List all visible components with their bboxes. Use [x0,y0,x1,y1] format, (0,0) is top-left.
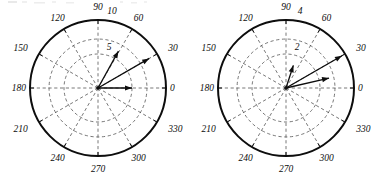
angle-tick-label-30: 30 [167,43,178,53]
angle-tick-label-270: 270 [91,164,106,174]
angle-tick-label-90: 90 [281,2,291,12]
angle-tick-label-90: 90 [93,2,103,12]
origin-dot [284,86,288,90]
angle-tick-label-60: 60 [134,13,144,23]
left-polar-svg: 0306090120150180210240270300330510 [0,0,187,176]
right-polar-svg: 030609012015018021024027030033024 [187,0,374,176]
left-polar-group: 0306090120150180210240270300330510 [12,2,183,174]
origin-dot [96,86,100,90]
angle-tick-label-330: 330 [355,124,371,134]
left-polar-panel: 0306090120150180210240270300330510 [0,0,187,176]
angle-tick-label-180: 180 [200,83,215,93]
radial-tick-label-4: 4 [298,6,303,16]
polar-figure: 0306090120150180210240270300330510 03060… [0,0,374,176]
angle-tick-label-240: 240 [50,153,65,163]
vector-head-2 [289,65,294,72]
vector-head-1 [335,56,342,62]
angle-tick-label-120: 120 [50,13,65,23]
grid-spoke-60 [286,29,320,88]
angle-tick-label-150: 150 [14,43,29,53]
angle-tick-label-300: 300 [130,153,146,163]
angle-tick-label-210: 210 [202,124,217,134]
angle-tick-label-330: 330 [167,124,183,134]
vector-head-0 [125,85,132,90]
angle-tick-label-240: 240 [238,153,253,163]
grid-spoke-120 [64,29,98,88]
vector-head-1 [142,58,149,64]
right-polar-panel: 030609012015018021024027030033024 [187,0,374,176]
radial-tick-label-2: 2 [295,42,300,52]
angle-tick-label-210: 210 [14,124,29,134]
angle-tick-label-300: 300 [318,153,334,163]
radial-tick-label-5: 5 [107,42,112,52]
angle-tick-label-120: 120 [238,13,253,23]
vector-shaft-1 [286,56,342,88]
angle-tick-label-30: 30 [355,43,366,53]
angle-tick-label-270: 270 [279,164,294,174]
angle-tick-label-0: 0 [358,83,363,93]
grid-spoke-120 [252,29,286,88]
angle-tick-label-150: 150 [202,43,217,53]
angle-tick-label-180: 180 [12,83,27,93]
right-polar-group: 030609012015018021024027030033024 [200,2,371,174]
radial-tick-label-10: 10 [107,6,117,16]
angle-tick-label-0: 0 [170,83,175,93]
angle-tick-label-60: 60 [322,13,332,23]
